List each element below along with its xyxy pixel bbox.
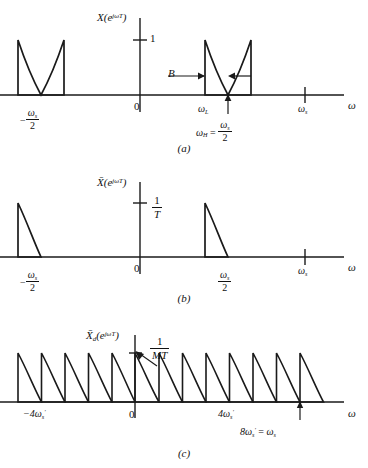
spectrum-lobe-negative-a bbox=[18, 40, 64, 95]
panel-a-original-spectrum: X(ejωT) 1 0 ω B −ωs2 ωL ωs ωH = ωs2 (a) bbox=[0, 0, 368, 160]
spectrum-lobe bbox=[253, 353, 277, 402]
bandwidth-label-b: B bbox=[168, 68, 175, 79]
spectrum-lobe-train-c bbox=[18, 353, 324, 402]
spectrum-lobe bbox=[206, 353, 230, 402]
tick-label-pos-4ws-prime-c: 4ωs′ bbox=[218, 409, 234, 420]
bandwidth-arrowhead-left bbox=[198, 73, 205, 80]
spectrum-lobe bbox=[42, 353, 66, 402]
spectrum-lobe bbox=[300, 353, 324, 402]
spectrum-lobe bbox=[89, 353, 113, 402]
tick-label-pos-half-ws-b: ωs2 bbox=[218, 269, 231, 293]
signal-label-b: X̄(ejωT) bbox=[97, 177, 126, 188]
spectrum-lobe bbox=[112, 353, 135, 402]
panel-c-plot bbox=[0, 310, 368, 468]
omega-axis-label-b: ω bbox=[348, 262, 356, 273]
omega-axis-label-c: ω bbox=[348, 408, 356, 419]
spectrum-lobe-negative-b bbox=[18, 203, 41, 257]
caption-b: (b) bbox=[0, 292, 368, 304]
tick-label-omega-s-a: ωs bbox=[298, 104, 307, 115]
tick-label-neg-half-ws-b: −ωs2 bbox=[20, 269, 39, 293]
tick-label-neg-4ws-prime-c: −4ωs′ bbox=[23, 409, 46, 420]
signal-label-a: X(ejωT) bbox=[97, 12, 126, 23]
spectrum-lobe bbox=[18, 353, 42, 402]
tick-label-neg-half-ws-a: −ωs2 bbox=[20, 107, 39, 131]
end-label-c: 8ωs′ = ωs bbox=[240, 427, 276, 438]
amplitude-label-c: 1MT bbox=[150, 335, 169, 361]
spectrum-lobe-positive-b bbox=[205, 203, 228, 257]
panel-c-decimated-spectrum: X̄d(ejωT) 1MT 0 ω −4ωs′ 4ωs′ 8ωs′ = ωs (… bbox=[0, 310, 368, 468]
caption-a: (a) bbox=[0, 142, 368, 154]
origin-label-a: 0 bbox=[134, 101, 140, 112]
signal-label-c: X̄d(ejωT) bbox=[86, 330, 119, 343]
caption-c: (c) bbox=[0, 447, 368, 459]
omega-axis-label-a: ω bbox=[348, 100, 356, 111]
spectrum-lobe bbox=[277, 353, 301, 402]
panel-a-plot bbox=[0, 0, 368, 160]
tick-label-omega-l-a: ωL bbox=[198, 104, 209, 115]
amplitude-label-a: 1 bbox=[150, 33, 156, 44]
spectrum-lobe-positive-a bbox=[205, 40, 251, 95]
spectrum-lobe bbox=[65, 353, 89, 402]
spectrum-lobe bbox=[230, 353, 254, 402]
origin-label-b: 0 bbox=[134, 263, 140, 274]
tick-label-omega-s-b: ωs bbox=[298, 266, 307, 277]
origin-label-c: 0 bbox=[129, 409, 135, 420]
panel-b-sampled-spectrum: X̄(ejωT) 1T 0 ω −ωs2 ωs2 ωs (b) bbox=[0, 160, 368, 310]
bandwidth-arrowhead-right bbox=[228, 73, 235, 80]
panel-b-plot bbox=[0, 160, 368, 310]
amplitude-label-b: 1T bbox=[152, 194, 162, 220]
spectrum-lobe bbox=[183, 353, 207, 402]
cusp-label-omega-h-a: ωH = ωs2 bbox=[196, 119, 232, 143]
